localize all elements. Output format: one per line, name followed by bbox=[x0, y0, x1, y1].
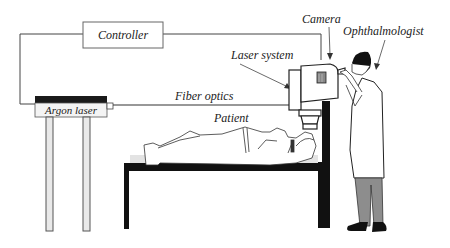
laser-stand-leg bbox=[46, 117, 53, 231]
controller-box: Controller bbox=[83, 22, 163, 48]
ophthalmologist-label: Ophthalmologist bbox=[343, 24, 424, 38]
arrowhead-icon bbox=[327, 53, 333, 60]
laser-system-label: Laser system bbox=[230, 48, 294, 62]
controller-label: Controller bbox=[98, 28, 149, 42]
patient-figure bbox=[144, 127, 316, 165]
patient-label: Patient bbox=[213, 111, 249, 125]
argon-laser-unit: Argon laser bbox=[35, 96, 113, 231]
fiber-optics-label: Fiber optics bbox=[174, 89, 234, 103]
argon-laser-label: Argon laser bbox=[44, 104, 98, 116]
camera-arrow bbox=[329, 27, 330, 55]
camera-label: Camera bbox=[302, 12, 341, 26]
laser-system-arrow bbox=[240, 64, 288, 87]
patient-bed bbox=[124, 162, 330, 229]
controller-wiring bbox=[20, 34, 321, 104]
ophthalmologist-arrow bbox=[377, 40, 385, 66]
laser-photocoagulation-diagram: Controller Argon laser Fiber optics Lase… bbox=[0, 0, 450, 248]
arrowhead-icon bbox=[374, 63, 380, 70]
laser-system-device bbox=[289, 64, 345, 129]
laser-stand-leg bbox=[83, 117, 90, 231]
ophthalmologist-figure bbox=[340, 52, 387, 232]
